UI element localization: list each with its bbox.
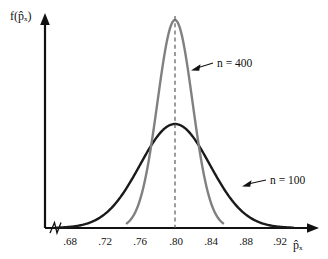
annotation-n400: n = 400 (191, 57, 252, 71)
x-axis-title: p̂ₓ (293, 238, 303, 252)
axis-group (40, 13, 319, 233)
x-tick-label: .84 (204, 235, 218, 247)
x-tick-label: .92 (273, 235, 287, 247)
x-tick-label: .76 (133, 235, 147, 247)
x-axis-arrowhead (307, 223, 319, 233)
y-axis-arrowhead (40, 13, 50, 25)
annotation-n100: n = 100 (242, 174, 305, 187)
x-tick-label: .80 (169, 235, 183, 247)
y-axis-title: f(p̂ₓ) (10, 9, 31, 23)
x-tick-label: .68 (63, 235, 77, 247)
x-tick-label-group: .68 .72 .76 .80 .84 .88 .92 (63, 235, 287, 247)
series-label-n100: n = 100 (270, 174, 305, 186)
leader-arrowhead-n100 (242, 180, 252, 187)
x-tick-label: .88 (239, 235, 253, 247)
x-tick-label: .72 (98, 235, 112, 247)
chart-canvas: f(p̂ₓ) p̂ₓ .68 .72 .76 .80 .84 .88 .92 n… (0, 0, 328, 259)
sampling-distribution-figure: f(p̂ₓ) p̂ₓ .68 .72 .76 .80 .84 .88 .92 n… (0, 0, 328, 259)
leader-arrowhead-n400 (191, 64, 201, 71)
series-label-n400: n = 400 (217, 57, 252, 69)
